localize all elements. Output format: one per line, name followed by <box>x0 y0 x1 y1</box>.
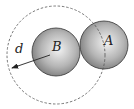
distance-label: d <box>15 41 23 56</box>
sphere-range-diagram: d B A <box>0 0 134 109</box>
sphere-b-label: B <box>51 39 62 54</box>
sphere-a-label: A <box>103 33 113 48</box>
